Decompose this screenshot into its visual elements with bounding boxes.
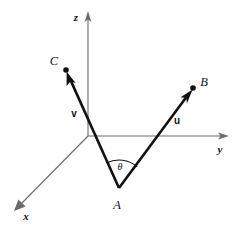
angle-label-theta: θ <box>118 161 123 172</box>
vector-diagram-figure: z y x A B C u v θ <box>0 0 240 228</box>
vector-label-u: u <box>174 115 180 126</box>
point-label-a: A <box>112 198 121 212</box>
axis-x <box>14 136 88 211</box>
vector-v <box>63 67 119 188</box>
vector-u-shaft <box>119 97 187 188</box>
point-label-b: B <box>200 75 208 89</box>
axis-label-y: y <box>216 143 223 155</box>
vector-v-shaft <box>70 80 119 188</box>
point-b-dot <box>190 85 196 91</box>
axis-label-x: x <box>22 210 29 222</box>
axis-label-z: z <box>73 11 79 23</box>
vector-u <box>119 85 196 188</box>
axis-x-line <box>21 136 88 204</box>
vector-label-v: v <box>71 108 77 119</box>
point-c-dot <box>63 67 69 73</box>
point-label-c: C <box>50 54 59 68</box>
vector-diagram-canvas: z y x A B C u v θ <box>0 0 240 228</box>
